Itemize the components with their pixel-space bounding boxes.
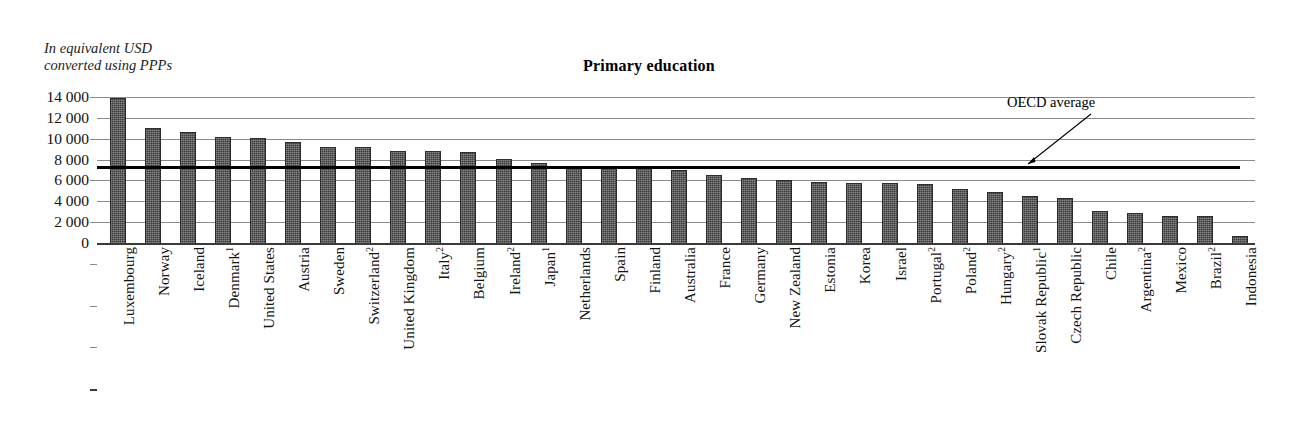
y-axis-tick [90, 97, 97, 98]
bar [776, 180, 792, 243]
bar [671, 170, 687, 243]
bar [320, 147, 336, 243]
bar [1092, 211, 1108, 243]
bar [250, 138, 266, 243]
x-axis-category-label: Italy2 [437, 247, 452, 280]
x-axis-category-label: Slovak Republic1 [1034, 247, 1049, 353]
x-axis-category-label: Hungary2 [999, 247, 1014, 305]
y-axis-tick-label: 2 000 [54, 213, 89, 231]
x-axis-category-label: Finland [648, 247, 663, 294]
chart-figure: In equivalent USD converted using PPPs P… [0, 0, 1298, 423]
y-axis-tick-label: 8 000 [54, 151, 89, 169]
y-axis-tick [90, 264, 97, 265]
y-axis-tick [90, 222, 97, 223]
x-axis-category-label: New Zealand [788, 247, 803, 328]
bar [425, 151, 441, 243]
footnote-marker: 2 [1207, 247, 1217, 252]
x-axis-category-label: Sweden [332, 247, 347, 295]
y-axis-tick-label: 12 000 [46, 109, 89, 127]
y-axis-tick [90, 139, 97, 140]
x-axis-category-label: Indonesia [1244, 247, 1259, 306]
x-axis-category-label: Korea [858, 247, 873, 284]
footnote-marker: 2 [365, 247, 375, 252]
y-axis: 14 00012 00010 0008 0006 0004 0002 0000 [0, 97, 89, 243]
footnote-marker: 1 [1032, 247, 1042, 252]
x-axis-category-label: Portugal2 [929, 247, 944, 304]
bar [636, 167, 652, 243]
bar [1232, 236, 1248, 243]
bar [285, 142, 301, 243]
y-axis-tick-label: 6 000 [54, 171, 89, 189]
footnote-marker: 2 [435, 247, 445, 252]
x-axis-category-label: Chile [1104, 247, 1119, 280]
x-axis-category-label: Czech Republic [1069, 247, 1084, 344]
bar [882, 183, 898, 243]
axis-baseline [97, 243, 1255, 245]
bar [110, 98, 126, 243]
bar [1127, 213, 1143, 243]
x-axis-category-label: United Kingdom [402, 247, 417, 350]
x-axis-category-label: Estonia [823, 247, 838, 293]
x-axis-category-label: Poland2 [964, 247, 979, 294]
bar [355, 147, 371, 243]
bar [1057, 198, 1073, 243]
x-axis-category-label: Belgium [472, 247, 487, 299]
x-axis-category-label: Iceland [192, 247, 207, 292]
x-axis-category-label: Denmark1 [227, 247, 242, 308]
y-axis-tick-label: 10 000 [46, 130, 89, 148]
y-axis-tick [90, 306, 97, 307]
footnote-marker: 1 [225, 247, 235, 252]
footnote-marker: 1 [541, 247, 551, 252]
y-axis-tick-label: 14 000 [46, 88, 89, 106]
x-axis-category-label: Brazil2 [1209, 247, 1224, 289]
footnote-marker: 2 [506, 247, 516, 252]
x-axis-category-label: Norway [157, 247, 172, 296]
x-axis-category-label: Argentina2 [1139, 247, 1154, 312]
bar [145, 128, 161, 243]
bar [741, 178, 757, 243]
bar [1022, 196, 1038, 243]
x-axis-category-label: Mexico [1174, 247, 1189, 293]
footnote-marker: 2 [997, 247, 1007, 252]
bar [917, 184, 933, 243]
y-axis-tick-label: 4 000 [54, 192, 89, 210]
bar [496, 159, 512, 243]
bar [1197, 216, 1213, 243]
x-axis-category-label: Japan1 [543, 247, 558, 287]
x-axis-category-label: Australia [683, 247, 698, 303]
bar [531, 163, 547, 243]
y-axis-tick [90, 389, 97, 391]
bar [390, 151, 406, 243]
oecd-average-label: OECD average [1007, 94, 1095, 111]
footnote-marker: 2 [927, 247, 937, 252]
x-axis-category-label: Luxembourg [122, 247, 137, 325]
bar [706, 175, 722, 243]
y-axis-tick-label: 0 [81, 234, 89, 252]
y-axis-tick [90, 347, 97, 348]
bar [180, 132, 196, 243]
x-axis-category-label: Israel [894, 247, 909, 281]
y-axis-tick [90, 180, 97, 181]
x-axis-category-label: Spain [613, 247, 628, 282]
x-axis-category-label: Netherlands [578, 247, 593, 321]
x-axis-category-label: Ireland2 [508, 247, 523, 295]
x-axis-category-label: United States [262, 247, 277, 329]
x-axis-category-label: Germany [753, 247, 768, 304]
x-axis-category-label: France [718, 247, 733, 288]
x-axis-category-label: Austria [297, 247, 312, 292]
footnote-marker: 2 [1137, 247, 1147, 252]
bar [952, 189, 968, 243]
bar [846, 183, 862, 243]
bar [987, 192, 1003, 243]
bar [811, 182, 827, 243]
bar [1162, 216, 1178, 243]
x-axis-category-label: Switzerland2 [367, 247, 382, 325]
bar [566, 167, 582, 243]
chart-title: Primary education [0, 57, 1298, 75]
bar [215, 137, 231, 243]
x-axis-category-labels: LuxembourgNorwayIcelandDenmark1United St… [97, 247, 1255, 397]
bar [601, 167, 617, 243]
footnote-marker: 2 [962, 247, 972, 252]
